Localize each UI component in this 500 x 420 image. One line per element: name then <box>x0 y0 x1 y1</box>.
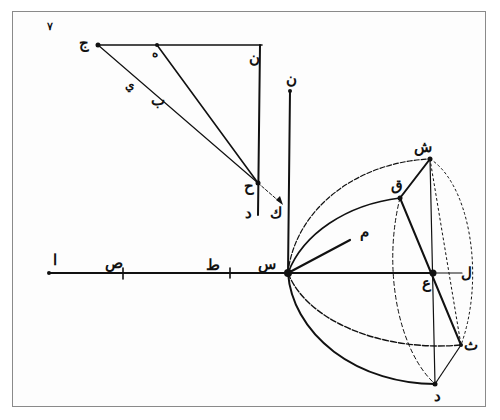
label-s-center: س <box>258 257 276 272</box>
label-h: ه <box>152 47 158 59</box>
vertical-n-d <box>258 45 260 215</box>
label-b: ب <box>151 93 165 108</box>
label-y: ي <box>125 79 134 91</box>
outer-arc <box>288 273 435 384</box>
label-ain: ع <box>422 276 431 291</box>
point-q <box>398 196 403 201</box>
inner-arc-upper <box>288 198 400 273</box>
label-j: ج <box>79 36 89 51</box>
point-ain <box>430 270 437 277</box>
label-m: م <box>360 225 369 240</box>
line-s-m <box>288 240 350 273</box>
label-s-base: ص <box>105 256 123 271</box>
line-sh-q <box>400 159 430 198</box>
point-pole-top <box>288 89 292 93</box>
label-n-pole: ن <box>286 72 297 87</box>
label-d-left: د <box>245 206 252 221</box>
label-q: ق <box>391 178 403 193</box>
label-d-bottom: د <box>434 389 441 404</box>
label-l: ل <box>461 266 472 281</box>
dotted-arc-right <box>430 159 473 345</box>
point-j <box>96 43 101 48</box>
point-h2 <box>256 181 261 186</box>
line-j-h2 <box>98 45 258 183</box>
point-sh <box>428 157 433 162</box>
line-h-h2 <box>157 45 258 183</box>
point-th <box>459 343 463 347</box>
label-k: ك <box>270 206 282 221</box>
label-h2: ح <box>244 179 254 194</box>
figure-number: ٧ <box>47 21 53 32</box>
label-th: ث <box>464 338 478 353</box>
label-n-top: ن <box>249 51 260 66</box>
line-th-d <box>435 345 461 384</box>
point-a <box>47 271 51 275</box>
label-t: ط <box>206 258 220 273</box>
label-sh: ش <box>414 140 432 155</box>
vertical-pole <box>288 91 290 273</box>
line-sh-th <box>430 159 461 345</box>
point-center <box>284 269 292 277</box>
outer-arc-upper <box>288 159 430 273</box>
label-a: ا <box>53 253 57 268</box>
